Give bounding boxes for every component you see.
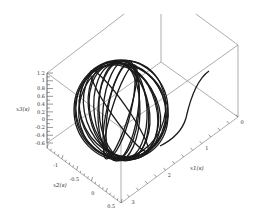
x1-tick-label: 3 [132,199,135,205]
x3-tick-label: 0.4 [37,101,45,107]
x3-tick-label: -0.6 [35,140,45,146]
x1-tick-label: 0 [240,119,243,125]
x1-tick-label: 1 [205,145,208,151]
x2-tick-label: -1 [53,162,58,168]
x1-axis: 0123 [127,115,243,205]
x3-tick-label: -0.2 [35,124,45,130]
x3-tick-label: -0.4 [35,132,45,138]
x1-tick-label: 2 [168,172,171,178]
3d-plot: 1.210.80.60.40.20-0.2-0.4-0.6 -1-0.500.5… [0,0,260,212]
x3-tick-label: 1 [42,77,45,83]
x2-tick-label: 0.5 [107,203,115,209]
x3-tick-label: 0.2 [37,109,45,115]
x3-tick-label: 0.6 [37,93,45,99]
x3-axis: 1.210.80.60.40.20-0.2-0.4-0.6 [35,70,53,146]
x2-tick-label: -0.5 [69,176,79,182]
x3-axis-label: x3(s) [16,106,30,112]
x3-tick-label: 0 [42,116,45,122]
x2-axis-label: x2(s) [53,182,67,188]
x3-tick-label: 1.2 [37,70,45,76]
x3-tick-label: 0.8 [37,85,45,91]
x2-tick-label: 0 [91,190,94,196]
x1-axis-label: x1(s) [190,165,204,171]
